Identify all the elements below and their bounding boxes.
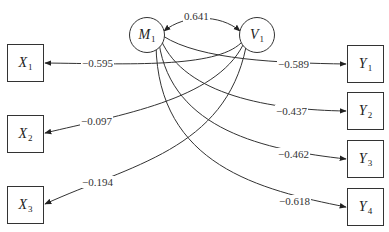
edge-label-y4: −0.618 (278, 195, 311, 207)
node-x3-letter: X (18, 197, 27, 212)
node-y1-letter: Y (359, 56, 367, 71)
path-diagram: M1 V1 X1 X2 X3 Y1 Y2 Y3 Y4 0.641 −0.595 … (0, 0, 389, 232)
node-x3-sub: 3 (28, 204, 33, 214)
edge-label-x2: −0.097 (80, 115, 113, 127)
edge-label-x1: −0.595 (81, 57, 114, 69)
edge-v1-x2 (45, 45, 243, 133)
node-m1-sub: 1 (151, 34, 156, 44)
node-x1-letter: X (18, 55, 27, 70)
node-y3: Y3 (347, 140, 384, 178)
node-v1: V1 (239, 17, 275, 53)
node-v1-letter: V (250, 27, 259, 42)
node-x1: X1 (7, 44, 44, 82)
node-y3-sub: 3 (368, 158, 373, 168)
node-m1: M1 (129, 17, 165, 53)
node-y1: Y1 (347, 45, 384, 83)
node-y1-sub: 1 (368, 63, 373, 73)
node-y4-letter: Y (359, 199, 367, 214)
node-v1-sub: 1 (260, 34, 265, 44)
node-y4-sub: 4 (368, 206, 373, 216)
node-x2-letter: X (18, 126, 27, 141)
edge-v1-x3 (45, 47, 246, 204)
node-y2-sub: 2 (368, 110, 373, 120)
edge-m1-y4 (156, 45, 346, 207)
edge-label-y2: −0.437 (275, 105, 308, 117)
edge-label-y3: −0.462 (277, 148, 310, 160)
edge-label-y1: −0.589 (277, 58, 310, 70)
node-x2-sub: 2 (28, 133, 33, 143)
edges-layer (0, 0, 389, 232)
node-x1-sub: 1 (28, 62, 33, 72)
node-m1-letter: M (138, 27, 150, 42)
node-y3-letter: Y (359, 151, 367, 166)
correlation-label: 0.641 (183, 10, 210, 22)
node-y4: Y4 (347, 188, 384, 226)
node-x3: X3 (7, 186, 44, 224)
edge-label-x3: −0.194 (81, 176, 114, 188)
node-y2-letter: Y (359, 103, 367, 118)
node-y2: Y2 (347, 92, 384, 130)
node-x2: X2 (7, 115, 44, 153)
